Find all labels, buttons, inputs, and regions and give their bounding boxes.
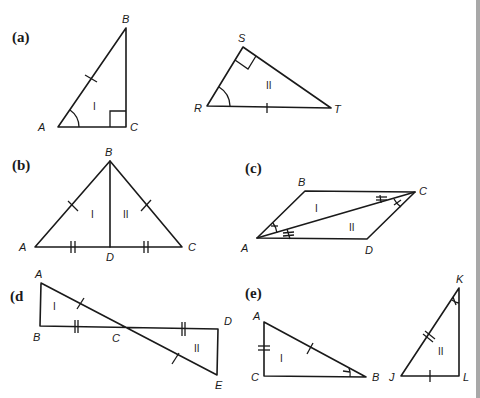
vertex-label-s: S — [238, 32, 246, 44]
vertex-label-b: B — [298, 176, 305, 188]
panel-a: (a) A B C I R S T II — [12, 13, 342, 133]
vertex-label-b: B — [105, 146, 112, 158]
vertex-label-l: L — [463, 371, 469, 383]
vertex-label-c: C — [130, 121, 138, 133]
triangle-rst: R S T II — [194, 32, 342, 115]
vertex-label-j: J — [388, 371, 395, 383]
vertex-label-c: C — [112, 332, 120, 344]
vertex-label-c: C — [188, 241, 196, 253]
double-tick-mark — [283, 232, 294, 233]
triangle-shape — [58, 28, 126, 127]
single-tick-mark — [172, 353, 179, 364]
roman-numeral-label: I — [91, 209, 94, 220]
triangle-shape — [401, 288, 459, 376]
roman-numeral-label: I — [315, 203, 318, 214]
vertex-label-c: C — [419, 185, 427, 197]
angle-arc-mark — [70, 110, 79, 127]
vertex-label-a: A — [240, 242, 248, 254]
roman-numeral-label: I — [93, 101, 96, 112]
bowtie-triangles: A B C D E I II — [33, 268, 232, 391]
panel-b: (b) A B C D I II — [12, 146, 196, 263]
vertex-label-a: A — [34, 268, 42, 280]
panel-label-a: (a) — [12, 29, 30, 46]
roman-numeral-label: II — [123, 209, 129, 220]
roman-numeral-label: II — [349, 222, 355, 233]
panel-label-e: (e) — [245, 285, 262, 302]
triangle-jkl: K J L II — [388, 273, 469, 383]
angle-arc-mark — [273, 223, 277, 233]
bowtie-shape — [40, 283, 218, 375]
vertex-label-r: R — [194, 102, 202, 114]
vertex-label-b: B — [122, 13, 129, 25]
double-tick-mark — [283, 235, 294, 236]
triangle-shape — [207, 47, 331, 108]
single-tick-mark — [77, 298, 84, 309]
triangle-shape — [35, 161, 182, 247]
triangle-abc-e: A C B I — [251, 310, 379, 383]
vertex-label-d: D — [365, 244, 373, 256]
vertex-label-d: D — [224, 315, 232, 327]
panel-e: (e) A C B I K J L II — [245, 273, 469, 383]
triangle-abc-a: A B C I — [37, 13, 138, 133]
page-edge-strip — [476, 0, 480, 398]
panel-label-c: (c) — [245, 160, 262, 177]
right-angle-mark — [110, 111, 126, 127]
panel-c: (c) A B C D I II — [240, 160, 427, 256]
roman-numeral-label: II — [438, 346, 444, 357]
angle-arc-mark — [219, 87, 230, 106]
right-angle-mark — [235, 56, 256, 69]
triangle-abc-b: A B C D I II — [18, 146, 196, 263]
vertex-label-k: K — [456, 273, 464, 285]
triangle-shape — [264, 322, 366, 377]
vertex-label-a: A — [252, 310, 260, 322]
panel-label-d: (d — [10, 288, 24, 305]
roman-numeral-label: II — [194, 343, 200, 354]
vertex-label-b: B — [372, 371, 379, 383]
roman-numeral-label: II — [266, 80, 272, 91]
parallelogram-abcd: A B C D I II — [240, 176, 427, 256]
panel-d: (d A B C D E I II — [10, 268, 232, 391]
roman-numeral-label: I — [53, 301, 56, 312]
panel-label-b: (b) — [12, 157, 30, 174]
angle-tick-mark — [343, 371, 350, 372]
vertex-label-c: C — [251, 371, 259, 383]
vertex-label-b: B — [33, 331, 40, 343]
roman-numeral-label: I — [280, 353, 283, 364]
vertex-label-a: A — [18, 241, 26, 253]
vertex-label-a: A — [37, 121, 45, 133]
single-tick-mark — [85, 75, 97, 82]
vertex-label-t: T — [334, 103, 342, 115]
vertex-label-e: E — [215, 379, 223, 391]
congruent-triangles-diagram: (a) A B C I R S T II (b) — [0, 0, 480, 398]
vertex-label-d: D — [106, 251, 114, 263]
